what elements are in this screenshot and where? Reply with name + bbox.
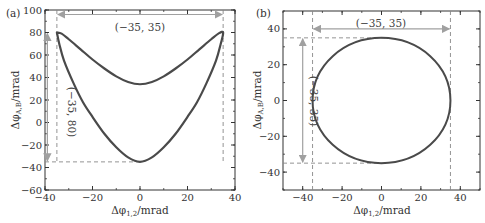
panel-b-horizontal-annotation: (−35, 35): [356, 17, 406, 29]
y-tick-label: 40: [29, 72, 42, 83]
y-tick-label: −40: [259, 167, 280, 178]
data-curve-loop: [57, 32, 223, 162]
x-tick-label: 20: [415, 192, 428, 203]
panel-b-chart: −40−2002040−40−2002040: [259, 11, 480, 203]
y-tick-label: 20: [267, 59, 280, 70]
panel-a-x-axis-label: Δφ1,2/mrad: [111, 204, 169, 218]
y-tick-label: 100: [23, 5, 42, 16]
x-tick-label: −20: [82, 192, 103, 203]
panel-a-horizontal-annotation: (−35, 35): [115, 21, 165, 33]
y-tick-label: −20: [21, 140, 42, 151]
y-tick-label: −60: [21, 185, 42, 196]
panel-a-vertical-annotation: (−35, 80): [66, 87, 78, 137]
x-tick-label: 40: [454, 192, 467, 203]
panel-a-chart: −40−2002040−60−40−20020406080100: [21, 5, 241, 204]
panel-b-label: (b): [256, 7, 271, 19]
panel-b-x-axis-label: Δφ1,2/mrad: [353, 204, 411, 218]
panel-b-vertical-annotation: (−35, 35): [308, 76, 320, 126]
x-tick-label: 40: [229, 192, 242, 203]
y-tick-label: 80: [29, 27, 42, 38]
x-tick-label: 0: [137, 192, 143, 203]
y-tick-label: 40: [267, 23, 280, 34]
y-tick-label: 0: [274, 95, 280, 106]
panel-b-y-axis-label: ΔφA,B/mrad: [251, 70, 265, 129]
y-tick-label: −40: [21, 162, 42, 173]
y-tick-label: 0: [36, 117, 42, 128]
panel-a-y-axis-label: ΔφA,B/mrad: [9, 70, 23, 129]
x-tick-label: −20: [332, 192, 353, 203]
x-tick-label: −40: [292, 192, 313, 203]
data-curve-circle: [313, 38, 451, 163]
y-tick-label: 60: [29, 50, 42, 61]
panel-a-label: (a): [6, 7, 20, 19]
y-tick-label: 20: [29, 95, 42, 106]
x-tick-label: 20: [181, 192, 194, 203]
figure: −40−2002040−60−40−20020406080100 (a) ΔφA…: [0, 0, 485, 223]
y-tick-label: −20: [259, 131, 280, 142]
x-tick-label: 0: [378, 192, 384, 203]
